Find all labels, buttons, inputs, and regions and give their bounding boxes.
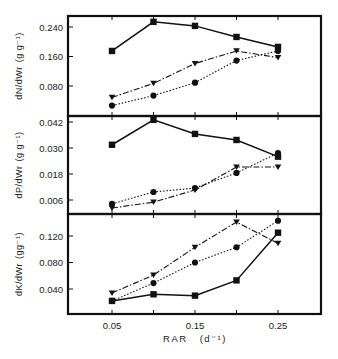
marker-circle (192, 80, 198, 86)
marker-square (150, 19, 156, 25)
panel-top-frame (68, 16, 321, 116)
marker-circle (192, 185, 198, 191)
x-tick-label: 0.15 (186, 320, 205, 331)
y-tick-label: 0.018 (39, 169, 63, 180)
panel-frames (68, 16, 321, 314)
marker-triangle-down (192, 61, 199, 67)
ylabel-mid-num: dP (14, 186, 24, 198)
marker-circle (192, 259, 198, 265)
marker-circle (150, 92, 156, 98)
marker-triangle-down (150, 81, 157, 87)
ylabel-top-den: dWr (14, 66, 24, 84)
marker-square (192, 131, 198, 137)
panel-middle-frame (68, 116, 321, 214)
marker-square (233, 34, 239, 40)
ylabel-bot-units: (gg⁻¹) (14, 232, 24, 259)
svg-text:dN/dWr(g g⁻¹): dN/dWr(g g⁻¹) (14, 32, 24, 99)
marker-circle (233, 244, 239, 250)
marker-square (150, 117, 156, 123)
y-tick-label: 0.160 (39, 51, 63, 62)
x-tick-label: 0.05 (103, 320, 122, 331)
marker-circle (109, 201, 115, 207)
marker-triangle-down (233, 219, 240, 225)
xlabel-units: (d⁻¹) (200, 333, 227, 344)
ylabel-bot-den: dWr (14, 263, 24, 281)
x-axis-label: RAR(d⁻¹) (163, 333, 227, 344)
marker-square (150, 291, 156, 297)
marker-square (233, 137, 239, 143)
y-tick-label: 0.080 (39, 81, 63, 92)
y-tick-label: 0.240 (39, 22, 63, 33)
xlabel-main: RAR (163, 333, 188, 344)
ylabel-mid-den: dWr (14, 166, 24, 184)
y-tick-label: 0.030 (39, 143, 63, 154)
marker-triangle-down (150, 272, 157, 278)
marker-circle (150, 189, 156, 195)
y-tick-label: 0.080 (39, 257, 63, 268)
ylabel-top-num: dN (14, 87, 24, 100)
svg-text:dP/dWr(g g⁻¹): dP/dWr(g g⁻¹) (14, 132, 24, 199)
marker-circle (150, 280, 156, 286)
x-tick-labels: 0.050.150.25 (103, 320, 288, 331)
marker-circle (233, 57, 239, 63)
marker-circle (233, 170, 239, 176)
series-line-triangle-down (112, 51, 278, 97)
marker-triangle-down (109, 290, 116, 296)
series-line-square (112, 120, 278, 157)
y-tick-label: 0.120 (39, 231, 63, 242)
marker-circle (109, 102, 115, 108)
marker-circle (109, 298, 115, 304)
series-line-circle (112, 153, 278, 204)
ylabel-top-units: (g g⁻¹) (14, 32, 24, 62)
y-axis-label-bottom: dK/dWr(gg⁻¹) (14, 232, 24, 296)
marker-triangle-down (109, 95, 116, 101)
marker-triangle-down (275, 241, 282, 247)
marker-square (109, 142, 115, 148)
svg-text:dK/dWr(gg⁻¹): dK/dWr(gg⁻¹) (14, 232, 24, 296)
x-tick-label: 0.25 (269, 320, 288, 331)
marker-circle (275, 48, 281, 54)
marker-square (275, 229, 281, 235)
figure: 0.0800.1600.2400.0060.0180.0300.0420.040… (0, 0, 338, 359)
marker-square (192, 23, 198, 29)
series-line-triangle-down (112, 222, 278, 293)
marker-square (109, 48, 115, 54)
ylabel-bot-num: dK (14, 284, 24, 296)
y-tick-label: 0.006 (39, 195, 63, 206)
y-tick-label: 0.042 (39, 117, 63, 128)
series-line-circle (112, 51, 278, 106)
series-layer (109, 19, 282, 304)
marker-circle (275, 218, 281, 224)
y-axis-label-middle: dP/dWr(g g⁻¹) (14, 132, 24, 199)
y-axis-label-top: dN/dWr(g g⁻¹) (14, 32, 24, 99)
y-tick-labels: 0.0800.1600.2400.0060.0180.0300.0420.040… (39, 22, 63, 295)
marker-triangle-down (275, 164, 282, 170)
marker-circle (275, 150, 281, 156)
marker-square (233, 277, 239, 283)
y-tick-label: 0.040 (39, 284, 63, 295)
marker-square (192, 292, 198, 298)
ylabel-mid-units: (g g⁻¹) (14, 132, 24, 162)
